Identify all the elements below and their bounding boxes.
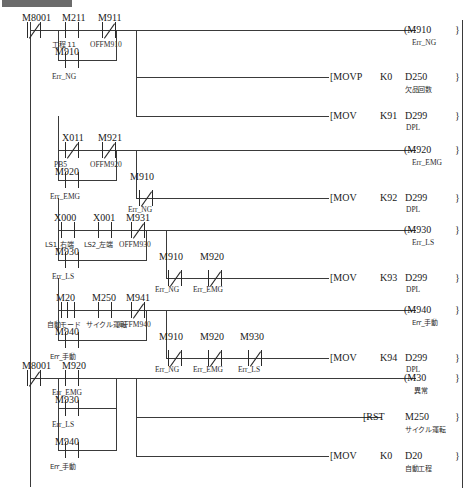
coil-device-m940: M940 — [407, 304, 431, 315]
instr-mnemonic-mov-4: MOV — [333, 352, 356, 363]
coil-m920[interactable]: (M920 — [404, 145, 431, 155]
coil-comment-m920: Err_EMG — [412, 159, 442, 167]
coil-m30[interactable]: (M30 — [404, 373, 426, 383]
instr-mnemonic-mov-1: MOV — [333, 110, 356, 121]
rung1-mov-wire — [136, 116, 329, 117]
comment-m930-r4: Err_LS — [238, 366, 260, 374]
instr-mov-k0-arg2-comment: 自動工程 — [405, 465, 432, 473]
instr-rst-arg1: M250 — [405, 412, 429, 422]
instr-movp-arg2-comment: 欠品回数 — [405, 86, 432, 94]
contact-m920-nc-rung4[interactable] — [205, 350, 225, 366]
coil-device-m930: M930 — [407, 224, 431, 235]
contact-label-m910-r4: M910 — [159, 332, 183, 342]
rung4-branch-right — [146, 310, 147, 340]
contact-x011-nc[interactable] — [62, 142, 82, 158]
rung5-mov-wire — [136, 456, 329, 457]
rung1-movp-return-bracket: } — [455, 72, 460, 82]
contact-x000-no[interactable] — [58, 222, 78, 238]
contact-m910-nc-rung3[interactable] — [165, 270, 185, 286]
window-title-sliver — [2, 0, 72, 7]
rung2-feed-from-rail — [58, 116, 59, 150]
right-power-rail — [462, 20, 463, 488]
instr-mov-k93[interactable]: [MOV — [330, 273, 357, 283]
instr-mov-k91[interactable]: [MOV — [330, 111, 357, 121]
ladder-diagram-canvas: M8001 M211 M911 工程 11 OFFM910 M910 Err_N… — [0, 0, 471, 492]
rung1-main-wire — [30, 30, 416, 31]
instr-mov-k91-arg1: K91 — [380, 111, 397, 121]
rung5-rst-return-bracket: } — [455, 412, 460, 422]
instr-mnemonic-mov-2: MOV — [333, 192, 356, 203]
contact-m920-no-branch2[interactable] — [62, 172, 82, 188]
rung2-branch-right — [116, 150, 117, 180]
rung1-output-riser — [136, 30, 137, 116]
comment-m930-r5: Err_LS — [52, 421, 74, 429]
rung1-return-bracket: } — [455, 25, 460, 35]
instr-mov-k94[interactable]: [MOV — [330, 353, 357, 363]
rung5-main-wire — [30, 378, 416, 379]
instr-mov-k92-arg2-comment: DPL — [406, 206, 420, 214]
instr-mov-k0-arg2: D20 — [405, 451, 422, 461]
instr-mov-k0-d20[interactable]: [MOV — [330, 451, 357, 461]
comment-x001: LS2_左端 — [84, 241, 113, 249]
comment-m920-b2: Err_EMG — [50, 193, 80, 201]
contact-label-m930-r4: M930 — [240, 332, 264, 342]
rung1-mov-return-bracket: } — [455, 111, 460, 121]
instr-rst-m250[interactable]: [RST — [363, 412, 385, 422]
comment-m940-r5: Err_手動 — [50, 463, 76, 471]
coil-m930[interactable]: (M930 — [404, 225, 431, 235]
instr-mnemonic-mov-5: MOV — [333, 450, 356, 461]
contact-m930-no-branch3[interactable] — [62, 252, 82, 268]
instr-mov-k92-arg1: K92 — [380, 193, 397, 203]
contact-m250-no[interactable] — [95, 302, 115, 318]
contact-m931-nc[interactable] — [128, 222, 148, 238]
instr-mnemonic-movp: MOVP — [333, 71, 362, 82]
contact-label-m920-r4: M920 — [200, 332, 224, 342]
contact-m8001-nc-rung5[interactable] — [24, 370, 44, 386]
contact-m910-nc-rung4[interactable] — [165, 350, 185, 366]
contact-m20-edge[interactable] — [58, 302, 78, 318]
contact-m940-no-branch4[interactable] — [62, 332, 82, 348]
rung5-or-right — [116, 378, 117, 450]
contact-m941-nc[interactable] — [128, 302, 148, 318]
contact-m930-nc-rung4[interactable] — [245, 350, 265, 366]
instr-movp-arg2: D250 — [405, 72, 427, 82]
contact-m920-no-rung5[interactable] — [62, 370, 82, 386]
instr-mov-k94-arg1: K94 — [380, 353, 397, 363]
coil-m910[interactable]: (M910 — [404, 25, 431, 35]
contact-m940-no-rung5[interactable] — [62, 442, 82, 458]
contact-m920-nc-rung3[interactable] — [205, 270, 225, 286]
instr-mov-k93-arg2: D299 — [405, 273, 427, 283]
rung2-mov-return-bracket: } — [455, 193, 460, 203]
comment-m910-b1: Err_NG — [52, 73, 76, 81]
contact-m8001-nc[interactable] — [24, 22, 44, 38]
instr-movp-arg1: K0 — [380, 72, 392, 82]
contact-m910-nc-rung2[interactable] — [136, 190, 156, 206]
coil-device-m30: M30 — [407, 372, 426, 383]
rung1-branch-right — [116, 30, 117, 60]
instr-mov-k0-arg1: K0 — [380, 451, 392, 461]
instr-rst-arg1-comment: サイクル運転 — [405, 426, 445, 434]
comment-m920-r4: Err_EMG — [193, 366, 223, 374]
contact-label-m920-r3: M920 — [200, 252, 224, 262]
instr-movp[interactable]: [MOVP — [330, 72, 362, 82]
coil-comment-m940: Err_手動 — [412, 319, 438, 327]
comment-m920-r3: Err_EMG — [193, 286, 223, 294]
coil-device-m920: M920 — [407, 144, 431, 155]
instr-mov-k91-arg2: D299 — [405, 111, 427, 121]
rung2-return-bracket: } — [455, 145, 460, 155]
contact-m211-no[interactable] — [62, 22, 82, 38]
contact-m930-no-rung5[interactable] — [62, 400, 82, 416]
contact-m910-no-branch1[interactable] — [62, 52, 82, 68]
coil-comment-m930: Err_LS — [412, 239, 434, 247]
rung5-rst-wire — [136, 417, 382, 418]
instr-mov-k94-arg2: D299 — [405, 353, 427, 363]
coil-comment-m910: Err_NG — [412, 39, 436, 47]
instr-mov-k91-arg2-comment: DPL — [406, 124, 420, 132]
instr-mov-k93-arg2-comment: DPL — [406, 286, 420, 294]
rung2-mov-wire — [136, 198, 329, 199]
contact-x001-no[interactable] — [95, 222, 115, 238]
left-power-rail — [30, 22, 31, 367]
comment-m930-b3: Err_LS — [52, 273, 74, 281]
coil-m940[interactable]: (M940 — [404, 305, 431, 315]
instr-mov-k92[interactable]: [MOV — [330, 193, 357, 203]
